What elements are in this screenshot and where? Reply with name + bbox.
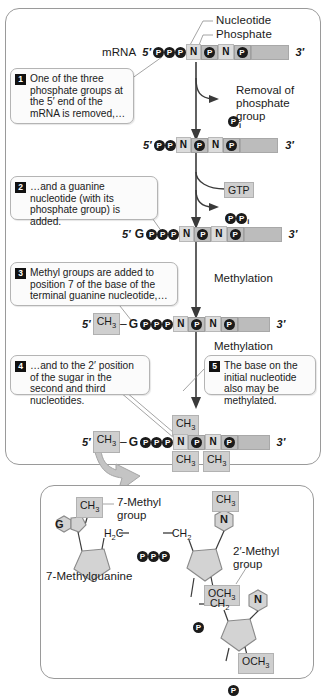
detail-ch3-top-left: CH3 xyxy=(76,497,103,518)
base-n-letter-lower: N xyxy=(254,593,262,605)
phosphate-circle: P xyxy=(137,551,148,562)
ch2-label-right: CH2 xyxy=(172,527,191,542)
phosphate-circle: P xyxy=(228,685,239,696)
base-n-letter-upper: N xyxy=(220,513,228,525)
h2c-label: H2C xyxy=(104,527,123,542)
label-2-prime-methyl-group: 2′-Methyl group xyxy=(233,545,279,571)
phosphate-lower-1: P xyxy=(184,598,204,634)
phosphate-chain: PPP xyxy=(128,527,170,563)
ch2-label-lower: CH2 xyxy=(210,597,229,612)
detail-ch3-top-right: CH3 xyxy=(212,491,239,512)
label-7-methylguanine: 7-Methylguanine xyxy=(46,570,133,582)
guanine-g-letter: G xyxy=(55,518,64,530)
phosphate-circle: P xyxy=(193,622,204,633)
phosphate-circle: P xyxy=(148,551,159,562)
phosphate-lower-2: P xyxy=(219,661,239,697)
detail-och3-lower: OCH3 xyxy=(238,653,274,674)
phosphate-circle: P xyxy=(159,551,170,562)
label-7-methyl-group: 7-Methyl group xyxy=(117,496,161,522)
